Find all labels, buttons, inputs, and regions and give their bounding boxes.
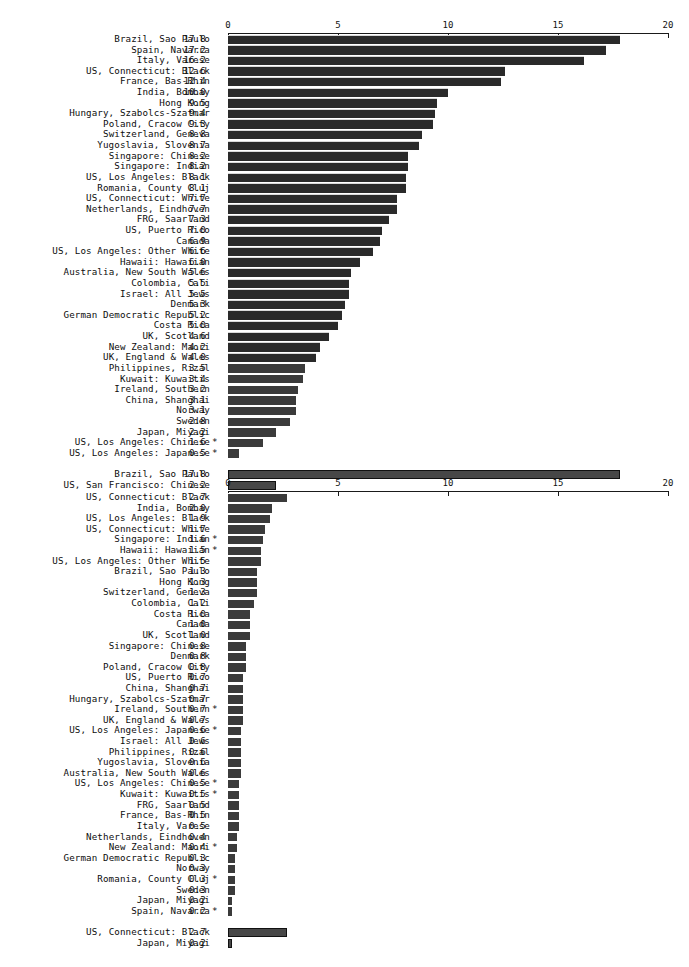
group-separator: [0, 458, 689, 469]
chart-bar: [228, 332, 329, 341]
chart-bar: [228, 438, 263, 447]
chart-row: Canada1.0: [0, 619, 689, 630]
row-value-label: 0.2: [168, 906, 206, 917]
row-value-label: 0.2: [168, 938, 206, 949]
row-value-label: 0.7: [168, 683, 206, 694]
chart-bar: [228, 385, 298, 394]
chart-bar: [228, 417, 290, 426]
chart-bar: [228, 652, 246, 661]
chart-row: France, Bas-Rhin0.5: [0, 810, 689, 821]
chart-bar: [228, 226, 382, 235]
chart-row: Kuwait: Kuwaitis3.4: [0, 374, 689, 385]
chart-bar: [228, 609, 250, 618]
chart-row: FRG, Saarland7.3: [0, 214, 689, 225]
chart-row: Australia, New South Wales5.6: [0, 267, 689, 278]
chart-row: UK, Scotland1.0: [0, 630, 689, 641]
axis-tick-label: 15: [553, 20, 564, 30]
chart-row: US, Los Angeles: Other White6.6: [0, 246, 689, 257]
chart-row: Costa Rica5.0: [0, 320, 689, 331]
chart-row: US, Connecticut: Black12.6: [0, 66, 689, 77]
axis-tick-label: 10: [443, 20, 454, 30]
chart-row: Costa Rica1.0: [0, 609, 689, 620]
chart-bar: [228, 66, 505, 75]
chart-bar: [228, 119, 433, 128]
chart-row: US, Puerto Rico7.0: [0, 225, 689, 236]
chart-bar: [228, 247, 373, 256]
chart-bar: [228, 875, 235, 884]
chart-bar: [228, 832, 237, 841]
chart-row: Kuwait: Kuwaitis0.5*: [0, 789, 689, 800]
chart-row: China, Shanghai3.1: [0, 395, 689, 406]
chart-bar: [228, 928, 287, 937]
chart-row: Israel: All Jews5.5: [0, 289, 689, 300]
bottom-chart-panel: 05101520 US, Connecticut: Black2.7India,…: [0, 478, 689, 967]
chart-row: Singapore: Chinese0.8: [0, 641, 689, 652]
chart-row: US, Los Angeles: Chinese0.5*: [0, 778, 689, 789]
chart-bar: [228, 289, 349, 298]
chart-bar: [228, 620, 250, 629]
row-footnote-marker: *: [212, 906, 218, 917]
row-value-label: 3.5: [168, 363, 206, 374]
row-value-label: 7.0: [168, 225, 206, 236]
top-chart-panel: 05101520 Brazil, Sao Paulo17.8Spain, Nav…: [0, 0, 689, 478]
chart-bar: [228, 567, 257, 576]
chart-row: US, Connecticut: Black2.7: [0, 492, 689, 503]
chart-bar: [228, 35, 620, 44]
chart-row: German Democratic Republic0.3: [0, 853, 689, 864]
chart-bar: [228, 843, 237, 852]
chart-row: Philippines, Rizal3.5: [0, 363, 689, 374]
chart-bar: [228, 236, 380, 245]
row-footnote-marker: *: [212, 789, 218, 800]
chart-bar: [228, 577, 257, 586]
chart-bar: [228, 109, 435, 118]
chart-bar: [228, 524, 265, 533]
chart-bar: [228, 546, 261, 555]
chart-bar: [228, 503, 272, 512]
bottom-chart-rows: US, Connecticut: Black2.7India, Bombay2.…: [0, 492, 689, 949]
row-value-label: 2.8: [168, 416, 206, 427]
chart-row: Brazil, Sao Paulo1.3: [0, 566, 689, 577]
chart-bar: [228, 747, 241, 756]
chart-row: Singapore: Chinese8.2: [0, 151, 689, 162]
chart-row: China, Shanghai0.7: [0, 683, 689, 694]
chart-row: Colombia, Cali1.2: [0, 598, 689, 609]
chart-bar: [228, 758, 241, 767]
row-footnote-marker: *: [212, 448, 218, 459]
axis-tick-label: 20: [663, 478, 674, 488]
chart-bar: [228, 363, 305, 372]
chart-bar: [228, 694, 243, 703]
chart-bar: [228, 88, 448, 97]
chart-bar: [228, 673, 243, 682]
row-footnote-marker: *: [212, 725, 218, 736]
chart-bar: [228, 705, 243, 714]
chart-bar: [228, 194, 397, 203]
chart-row: Japan, Miyagi0.2: [0, 938, 689, 949]
chart-bar: [228, 896, 232, 905]
axis-tick-label: 10: [443, 478, 454, 488]
chart-bar: [228, 737, 241, 746]
row-value-label: 0.5: [168, 448, 206, 459]
chart-row: UK, England & Wales4.0: [0, 352, 689, 363]
chart-bar: [228, 353, 316, 362]
axis-tick-label: 15: [553, 478, 564, 488]
row-footnote-marker: *: [212, 874, 218, 885]
chart-bar: [228, 939, 232, 948]
chart-row: France, Bas-Rhin12.4: [0, 76, 689, 87]
chart-row: Norway3.1: [0, 405, 689, 416]
chart-bar: [228, 715, 243, 724]
row-value-label: 8.1: [168, 172, 206, 183]
chart-row: Romania, County Cluj0.3*: [0, 874, 689, 885]
chart-row: US, Los Angeles: Japanese0.6*: [0, 725, 689, 736]
chart-bar: [228, 535, 263, 544]
chart-bar: [228, 374, 303, 383]
chart-bar: [228, 493, 287, 502]
chart-row: Colombia, Cali5.5: [0, 278, 689, 289]
chart-row: US, Los Angeles: Other White1.5: [0, 556, 689, 567]
chart-bar: [228, 641, 246, 650]
chart-row: India, Bombay10.0: [0, 87, 689, 98]
chart-bar: [228, 162, 408, 171]
chart-bar: [228, 268, 351, 277]
chart-bar: [228, 779, 239, 788]
chart-bar: [228, 310, 342, 319]
chart-bar: [228, 726, 241, 735]
